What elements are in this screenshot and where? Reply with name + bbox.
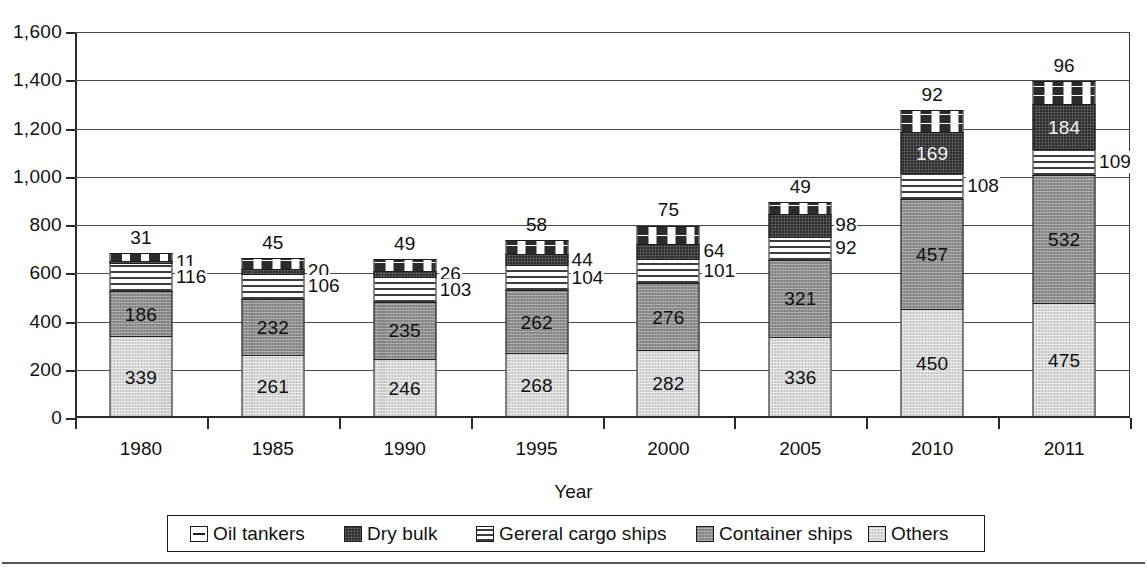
bar-segment-container-ships[interactable]: 186 [109, 291, 172, 336]
bar-segment-container-ships[interactable]: 276 [637, 283, 700, 350]
bar-segment-others[interactable]: 268 [505, 353, 568, 418]
oil-tankers-value-label: 96 [1053, 55, 1074, 77]
bar-segment-oil-tankers[interactable] [1033, 81, 1096, 104]
container-ships-swatch [696, 526, 714, 542]
stacked-bar[interactable]: 262268 [505, 240, 568, 418]
others-swatch [868, 526, 886, 542]
bar-segment-dry-bulk[interactable]: 184 [1033, 104, 1096, 148]
segment-value-label: 282 [652, 374, 684, 393]
segment-value-label: 261 [257, 377, 289, 396]
y-axis-tick-mark [66, 80, 75, 82]
segment-value-label: 457 [916, 245, 948, 264]
stacked-bar[interactable]: 321336 [769, 202, 832, 418]
bar-segment-dry-bulk[interactable]: 169 [901, 132, 964, 173]
bar-segment-others[interactable]: 246 [373, 359, 436, 418]
bar-segment-others[interactable]: 450 [901, 309, 964, 418]
oil-tankers-swatch [190, 526, 208, 542]
bar-group-1985: 232261 [207, 32, 339, 418]
x-axis-tick-label-2010: 2010 [911, 438, 953, 460]
legend-label: Container ships [719, 523, 853, 545]
general-cargo-value-label: 104 [571, 267, 605, 289]
segment-value-label: 186 [125, 305, 157, 324]
bar-segment-container-ships[interactable]: 262 [505, 290, 568, 353]
stacked-bar[interactable]: 232261 [241, 258, 304, 418]
segment-value-label: 276 [652, 308, 684, 327]
chart-canvas: 1863393111116232261452010623524649261032… [0, 0, 1147, 588]
bar-segment-oil-tankers[interactable] [769, 202, 832, 214]
x-axis-tick-label-2011: 2011 [1044, 438, 1085, 460]
legend-item-others[interactable]: Others [868, 523, 949, 545]
bar-segment-oil-tankers[interactable] [505, 240, 568, 254]
stacked-bar[interactable]: 276282 [637, 226, 700, 419]
bar-segment-gereral-cargo-ships[interactable] [505, 265, 568, 290]
x-axis-tick-label-1985: 1985 [252, 438, 294, 460]
stacked-bar[interactable]: 184532475 [1033, 81, 1096, 418]
stacked-bar[interactable]: 169457450 [901, 110, 964, 418]
bar-segment-oil-tankers[interactable] [373, 259, 436, 271]
bar-segment-gereral-cargo-ships[interactable] [901, 173, 964, 199]
x-axis-tick-mark [603, 418, 605, 429]
bar-segment-others[interactable]: 261 [241, 355, 304, 418]
bar-group-2011: 184532475 [998, 32, 1130, 418]
bar-segment-container-ships[interactable]: 232 [241, 299, 304, 355]
stacked-bar[interactable]: 186339 [109, 253, 172, 418]
bar-segment-oil-tankers[interactable] [637, 226, 700, 244]
bar-segment-oil-tankers[interactable] [241, 258, 304, 269]
legend-label: Others [891, 523, 949, 545]
oil-tankers-value-label: 58 [526, 214, 547, 236]
bar-segment-dry-bulk[interactable] [637, 244, 700, 259]
bar-segment-container-ships[interactable]: 321 [769, 260, 832, 337]
bar-segment-gereral-cargo-ships[interactable] [373, 277, 436, 302]
bar-segment-container-ships[interactable]: 457 [901, 199, 964, 309]
bar-group-2000: 276282 [603, 32, 735, 418]
y-axis-tick-mark [66, 370, 75, 372]
bar-segment-dry-bulk[interactable] [505, 254, 568, 265]
bar-segment-others[interactable]: 475 [1033, 303, 1096, 418]
oil-tankers-value-label: 49 [394, 233, 415, 255]
legend-item-general-cargo-ships[interactable]: Gereral cargo ships [476, 523, 667, 545]
bar-segment-container-ships[interactable]: 532 [1033, 175, 1096, 303]
footer-divider [2, 562, 1145, 564]
segment-value-label: 475 [1048, 351, 1080, 370]
general-cargo-value-label: 116 [175, 266, 207, 288]
x-axis-tick-mark [998, 418, 1000, 429]
x-axis-tick-label-2005: 2005 [779, 438, 821, 460]
y-axis-tick-label: 600 [29, 262, 62, 284]
y-axis-tick-mark [66, 418, 75, 420]
x-axis-tick-label-1990: 1990 [384, 438, 426, 460]
bar-segment-others[interactable]: 339 [109, 336, 172, 418]
y-axis-tick-label: 200 [29, 359, 62, 381]
bar-segment-gereral-cargo-ships[interactable] [1033, 149, 1096, 175]
bar-segment-dry-bulk[interactable] [769, 214, 832, 238]
segment-value-label: 262 [520, 313, 552, 332]
dry-bulk-value-label: 98 [834, 214, 857, 236]
segment-value-label: 246 [389, 379, 421, 398]
legend-item-dry-bulk[interactable]: Dry bulk [344, 523, 437, 545]
x-axis-tick-mark [339, 418, 341, 429]
bar-segment-gereral-cargo-ships[interactable] [637, 259, 700, 283]
bar-segment-others[interactable]: 282 [637, 350, 700, 418]
general-cargo-value-label: 109 [1098, 151, 1132, 173]
y-axis-tick-mark [66, 322, 75, 324]
general-cargo-value-label: 103 [439, 279, 473, 301]
segment-value-label: 450 [916, 354, 948, 373]
legend-label: Oil tankers [213, 523, 305, 545]
x-axis-tick-mark [734, 418, 736, 429]
bar-segment-others[interactable]: 336 [769, 337, 832, 418]
stacked-bar[interactable]: 235246 [373, 259, 436, 418]
legend-item-container-ships[interactable]: Container ships [696, 523, 853, 545]
y-axis-tick-mark [66, 129, 75, 131]
plot-area: 1863393111116232261452010623524649261032… [75, 32, 1130, 418]
oil-tankers-value-label: 49 [790, 176, 811, 198]
legend-item-oil-tankers[interactable]: Oil tankers [190, 523, 305, 545]
bar-segment-oil-tankers[interactable] [901, 110, 964, 132]
x-axis-tick-label-1995: 1995 [515, 438, 557, 460]
bar-segment-gereral-cargo-ships[interactable] [769, 237, 832, 259]
bar-segment-oil-tankers[interactable] [109, 253, 172, 260]
segment-value-label: 321 [784, 289, 816, 308]
bar-segment-gereral-cargo-ships[interactable] [241, 274, 304, 300]
segment-value-label: 532 [1048, 230, 1080, 249]
y-axis-tick-label: 1,600 [13, 21, 62, 43]
bar-segment-gereral-cargo-ships[interactable] [109, 263, 172, 291]
bar-segment-container-ships[interactable]: 235 [373, 302, 436, 359]
